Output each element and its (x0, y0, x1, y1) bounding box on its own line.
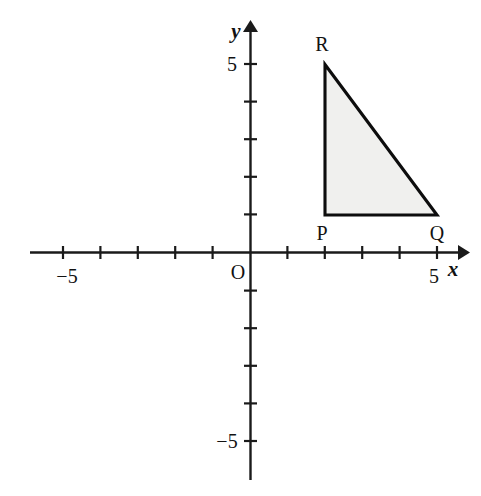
origin-label: O (231, 261, 245, 283)
vertex-label-q: Q (430, 222, 445, 244)
y-axis-label: y (228, 19, 241, 43)
y-axis-arrow-icon (243, 20, 258, 32)
vertex-label-p: P (316, 222, 327, 244)
x-axis-tick-label-minus-5: −5 (56, 265, 77, 287)
graph-canvas: x y O 5 −5 5 −5 R P Q (0, 0, 481, 496)
x-axis-tick-label-5: 5 (429, 265, 439, 287)
triangle-pqr-shape (325, 65, 437, 216)
x-axis-label: x (447, 257, 459, 281)
y-axis-tick-label-5: 5 (227, 53, 237, 75)
coordinate-plane-figure: x y O 5 −5 5 −5 R P Q (0, 0, 481, 496)
vertex-label-r: R (315, 33, 329, 55)
y-axis-group (243, 20, 258, 480)
y-axis-tick-label-minus-5: −5 (216, 430, 237, 452)
x-axis-arrow-icon (458, 245, 470, 260)
